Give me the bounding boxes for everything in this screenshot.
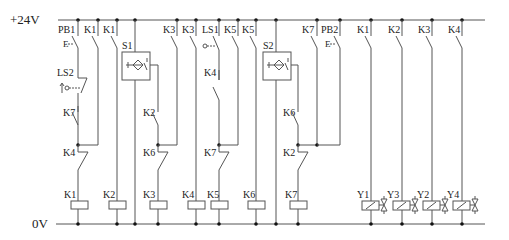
rung-y3: K2 Y3 <box>387 18 418 226</box>
coil-label-k4: K4 <box>182 189 194 200</box>
label-s1: S1 <box>122 40 133 51</box>
label-k1-y1: K1 <box>357 24 369 35</box>
label-k6-r3: K6 <box>143 147 155 158</box>
rung-y1: K1 Y1 <box>357 18 387 226</box>
coil-label-k3: K3 <box>143 189 155 200</box>
label-k7-latch: K7 <box>302 24 314 35</box>
label-pb2: PB2 <box>321 24 338 35</box>
label-k3-r4: K3 <box>182 24 194 35</box>
rail-label-0v: 0V <box>32 216 49 231</box>
label-k5-latch: K5 <box>224 24 236 35</box>
rung-k4: K3 K4 <box>182 18 205 226</box>
solenoid-label-y2: Y2 <box>417 189 429 200</box>
label-pb1: PB1 <box>58 24 75 35</box>
label-ls1: LS1 <box>202 24 219 35</box>
label-ls2: LS2 <box>57 67 74 78</box>
coil-k4 <box>188 201 205 209</box>
solenoid-label-y1: Y1 <box>357 189 369 200</box>
coil-k3 <box>150 201 167 209</box>
coil-k6 <box>248 201 265 209</box>
label-k7-r1: K7 <box>63 107 75 118</box>
solenoid-label-y4: Y4 <box>447 189 459 200</box>
coil-label-k5: K5 <box>207 189 219 200</box>
rung-k7: S2 K6 K2 K7 <box>263 18 342 226</box>
rung-k5: LS1 K4 K7 K5 K5 <box>202 18 240 226</box>
label-k2-r3: K2 <box>143 107 155 118</box>
rung-k3: S1 K2 K6 K3 K3 <box>122 18 179 226</box>
label-k1-latch: K1 <box>84 24 96 35</box>
valve-icon <box>470 196 478 214</box>
label-k4-r1: K4 <box>63 147 75 158</box>
coil-label-k7: K7 <box>285 189 297 200</box>
label-k4-r5: K4 <box>204 67 216 78</box>
coil-k2 <box>109 201 126 209</box>
solenoid-label-y3: Y3 <box>387 189 399 200</box>
label-k3-y2: K3 <box>418 24 430 35</box>
label-k5-r6: K5 <box>242 24 254 35</box>
coil-k1 <box>71 201 88 209</box>
coil-label-k6: K6 <box>243 189 255 200</box>
label-s2: S2 <box>263 40 274 51</box>
label-k3-latch: K3 <box>163 24 175 35</box>
coil-label-k2: K2 <box>103 189 115 200</box>
rung-k1: PB1 E LS2 K7 K4 K1 K1 <box>57 18 100 226</box>
relay-ladder-diagram: +24V 0V PB1 E LS2 K7 K4 <box>0 0 509 240</box>
label-k4-y4: K4 <box>448 24 460 35</box>
rail-label-plus24v: +24V <box>10 12 40 27</box>
coil-k5 <box>211 201 228 209</box>
valve-icon <box>379 196 387 214</box>
label-k2-r7: K2 <box>283 147 295 158</box>
label-k6-r7: K6 <box>283 107 295 118</box>
label-k7-r5: K7 <box>204 147 216 158</box>
label-k1-r2: K1 <box>103 24 115 35</box>
label-k2-y3: K2 <box>388 24 400 35</box>
coil-label-k1: K1 <box>64 189 76 200</box>
coil-k7 <box>290 201 307 209</box>
rung-y2: K3 Y2 <box>417 18 448 226</box>
rung-y4: K4 Y4 <box>447 18 478 226</box>
rung-k6: K5 K6 <box>242 18 265 226</box>
